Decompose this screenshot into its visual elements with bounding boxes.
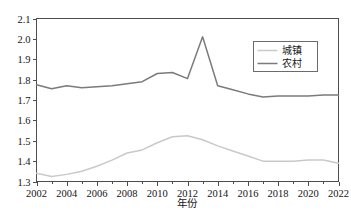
x-tick-label: 2020	[298, 188, 319, 199]
x-tick-label: 2022	[328, 188, 349, 199]
y-tick-label: 2.0	[17, 34, 30, 45]
y-tick-label: 1.9	[17, 54, 30, 65]
y-tick-label: 1.4	[17, 156, 31, 167]
y-tick-label: 2.1	[17, 14, 30, 25]
y-tick-label: 1.5	[17, 136, 30, 147]
x-tick-label: 2008	[117, 188, 138, 199]
line-chart-canvas: 1.31.41.51.61.71.81.92.02.1 200220042006…	[0, 0, 351, 221]
y-tick-label: 1.6	[17, 115, 30, 126]
chart-legend[interactable]: 城镇农村	[254, 42, 318, 72]
chart-figure: 1.31.41.51.61.71.81.92.02.1 200220042006…	[0, 0, 351, 221]
x-tick-label: 2014	[207, 188, 229, 199]
legend-label-城镇[interactable]: 城镇	[282, 44, 302, 56]
x-tick-label: 2004	[56, 188, 78, 199]
x-tick-label: 2010	[147, 188, 168, 199]
legend-label-农村[interactable]: 农村	[282, 57, 302, 69]
x-tick-label: 2018	[268, 188, 289, 199]
y-axis-tick-labels: 1.31.41.51.61.71.81.92.02.1	[17, 14, 31, 188]
x-tick-label: 2016	[237, 188, 258, 199]
y-tick-label: 1.7	[17, 95, 30, 106]
x-tick-label: 2002	[26, 188, 47, 199]
y-tick-label: 1.8	[17, 75, 30, 86]
y-tick-label: 1.3	[17, 177, 30, 188]
x-tick-label: 2006	[86, 188, 107, 199]
x-axis-title: 年份	[177, 197, 198, 209]
